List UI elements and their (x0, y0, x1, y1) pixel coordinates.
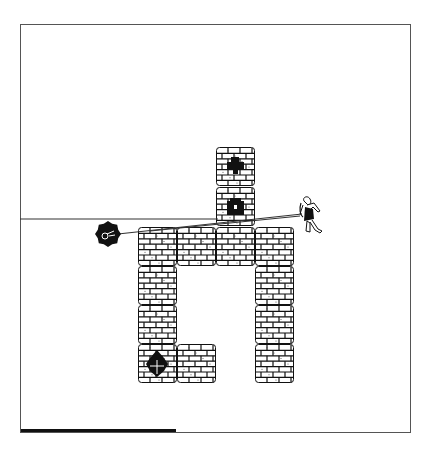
health-bar (21, 429, 176, 432)
trajectory-line (150, 216, 300, 231)
warrior-figure-icon[interactable] (300, 197, 322, 233)
spiked-ball-icon[interactable] (95, 221, 121, 247)
trajectory-line (118, 214, 302, 234)
overlay-layer (0, 0, 435, 455)
